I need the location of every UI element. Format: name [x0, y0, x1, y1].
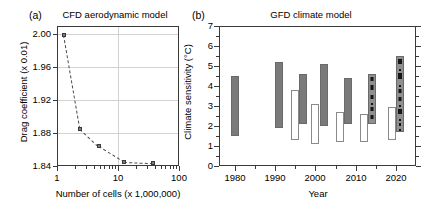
- y-tick-minor: [216, 136, 219, 137]
- y-ticklabel: 4: [191, 80, 213, 91]
- x-tick-major: [275, 166, 276, 171]
- bar-speckle: [371, 107, 374, 111]
- y-tick-minor: [216, 96, 219, 97]
- panel-b-y-axis-title: Climate sensitivity (°C): [182, 20, 193, 164]
- x-tick-major: [315, 166, 316, 171]
- panel-b: (b) GFD climate model 01234567 198019902…: [186, 0, 435, 219]
- data-point: [97, 144, 101, 148]
- x-ticklabel: 1980: [215, 172, 255, 183]
- x-tick-minor: [100, 166, 101, 169]
- range-bar: [291, 90, 299, 140]
- panel-a-x-axis-title: Number of cells (x 1,000,000): [37, 188, 199, 199]
- panel-b-title: GFD climate model: [236, 9, 386, 20]
- range-bar: [388, 107, 396, 140]
- x-tick-major: [179, 166, 180, 171]
- x-ticklabel: 1990: [255, 172, 295, 183]
- bar-speckle: [371, 77, 374, 81]
- x-tick-minor: [376, 166, 377, 169]
- range-bar: [360, 114, 368, 142]
- data-point: [122, 160, 126, 164]
- y-tick-minor: [216, 76, 219, 77]
- y-tick-minor: [216, 36, 219, 37]
- y-tick-minor-right: [416, 36, 419, 37]
- bar-speckle: [399, 69, 401, 71]
- y-tick-minor-right: [416, 116, 419, 117]
- bar-speckle: [371, 85, 374, 90]
- range-bar: [320, 64, 328, 126]
- x-tick-minor: [173, 166, 174, 169]
- y-tick-major: [214, 146, 219, 147]
- y-tick: [53, 67, 57, 68]
- figure-root: (a) CFD aerodynamic model 1.841.881.921.…: [0, 0, 435, 219]
- range-bar: [231, 76, 239, 136]
- x-tick-minor: [75, 166, 76, 169]
- bar-speckle: [398, 59, 402, 64]
- x-tick-minor: [147, 166, 148, 169]
- y-tick-major-right: [416, 126, 421, 127]
- bar-speckle: [398, 109, 402, 114]
- y-tick-major: [214, 106, 219, 107]
- bar-speckle: [371, 115, 374, 119]
- x-tick-minor: [165, 166, 166, 169]
- data-point: [151, 161, 155, 165]
- bar-speckle: [399, 85, 401, 87]
- y-tick-minor: [216, 156, 219, 157]
- x-tick-minor: [170, 166, 171, 169]
- x-ticklabel: 2020: [376, 172, 416, 183]
- y-tick: [53, 34, 57, 35]
- x-ticklabel: 2010: [336, 172, 376, 183]
- x-tick-minor: [336, 166, 337, 169]
- y-tick: [53, 100, 57, 101]
- y-ticklabel: 6: [191, 40, 213, 51]
- x-tick-minor: [109, 166, 110, 169]
- bar-speckle: [399, 123, 401, 126]
- x-tick-minor: [94, 166, 95, 169]
- y-tick-minor-right: [416, 76, 419, 77]
- range-bar: [368, 74, 376, 124]
- y-ticklabel: 3: [191, 100, 213, 111]
- panel-a-title: CFD aerodynamic model: [55, 9, 175, 20]
- x-tick-minor: [86, 166, 87, 169]
- bar-speckle: [371, 95, 374, 99]
- bar-speckle: [399, 97, 402, 101]
- y-tick-major-right: [416, 26, 421, 27]
- x-tick-minor: [255, 166, 256, 169]
- x-tick-minor: [176, 166, 177, 169]
- bar-speckle: [399, 105, 401, 107]
- y-tick: [53, 133, 57, 134]
- x-tick-major: [396, 166, 397, 171]
- x-tick-minor: [115, 166, 116, 169]
- x-tick-minor: [136, 166, 137, 169]
- y-ticklabel: 2: [191, 120, 213, 131]
- data-point: [62, 33, 66, 37]
- y-tick-minor: [216, 56, 219, 57]
- range-bar: [275, 62, 283, 128]
- x-ticklabel: 2000: [295, 172, 335, 183]
- y-tick-major-right: [416, 146, 421, 147]
- bar-speckle: [371, 103, 373, 105]
- y-tick-major: [214, 66, 219, 67]
- y-ticklabel: 5: [191, 60, 213, 71]
- y-tick-major-right: [416, 106, 421, 107]
- y-tick-major: [214, 26, 219, 27]
- y-tick-major-right: [416, 86, 421, 87]
- y-tick-major: [214, 46, 219, 47]
- x-ticklabel: 10: [98, 172, 138, 183]
- y-ticklabel: 7: [191, 20, 213, 31]
- x-tick-minor: [57, 166, 58, 171]
- y-tick-minor-right: [416, 96, 419, 97]
- y-tick-major: [214, 86, 219, 87]
- y-tick-minor-right: [416, 156, 419, 157]
- y-tick-major-right: [416, 66, 421, 67]
- x-tick-minor: [104, 166, 105, 169]
- x-tick-minor: [155, 166, 156, 169]
- x-tick-major: [356, 166, 357, 171]
- x-ticklabel: 1: [37, 172, 77, 183]
- range-bar: [396, 56, 404, 132]
- y-tick-major-right: [416, 166, 421, 167]
- x-tick-minor: [112, 166, 113, 169]
- range-bar: [311, 104, 319, 144]
- panel-b-plot-area: [219, 26, 416, 166]
- bar-speckle: [399, 89, 402, 93]
- y-ticklabel: 1: [191, 140, 213, 151]
